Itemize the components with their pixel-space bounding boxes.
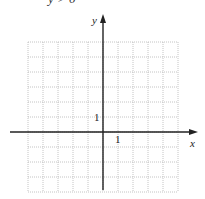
y-axis-arrow-icon <box>100 14 106 23</box>
y-tick-label: 1 <box>94 111 100 123</box>
x-axis-label: x <box>189 137 195 149</box>
y-axis-label: y <box>91 14 97 26</box>
x-tick-label: 1 <box>115 133 121 145</box>
x-axis-arrow-icon <box>189 129 198 135</box>
coordinate-grid: x y 1 1 <box>0 0 205 199</box>
